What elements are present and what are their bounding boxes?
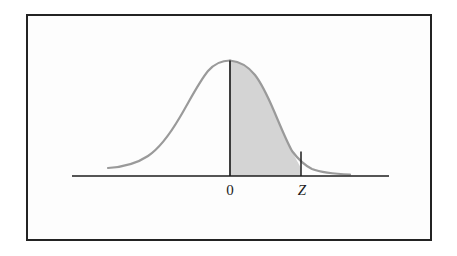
plot-frame-border <box>26 14 432 241</box>
axis-tick-label-zero: 0 <box>210 183 250 198</box>
figure-root: 0 Z <box>0 0 457 256</box>
axis-tick-label-z: Z <box>282 183 322 198</box>
